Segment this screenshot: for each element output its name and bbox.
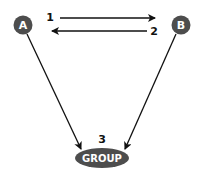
node-a-label: A: [19, 19, 28, 32]
node-b: B: [172, 16, 191, 35]
diagram-svg: A B GROUP 1 2 3: [0, 0, 203, 177]
node-b-label: B: [177, 19, 185, 32]
edge-a-to-group: [27, 34, 81, 149]
node-group: GROUP: [75, 148, 129, 168]
step-label-1: 1: [46, 11, 54, 24]
step-label-2: 2: [150, 25, 158, 38]
step-label-3: 3: [98, 133, 106, 146]
node-group-label: GROUP: [82, 153, 122, 164]
node-a: A: [14, 16, 33, 35]
edge-b-to-group: [125, 34, 176, 149]
diagram-canvas: A B GROUP 1 2 3: [0, 0, 203, 177]
